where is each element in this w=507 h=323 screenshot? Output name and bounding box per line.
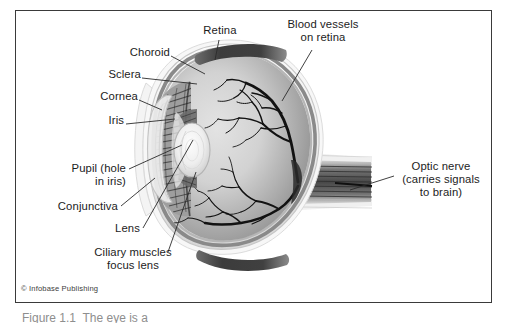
copyright-credit: © Infobase Publishing — [21, 284, 98, 293]
label-blood-vessels-line1: Blood vessels — [272, 18, 374, 31]
label-lens: Lens — [82, 222, 140, 235]
label-blood-vessels-line2: on retina — [272, 31, 374, 44]
figure-stage: Retina Choroid Sclera Cornea Iris Pupil … — [0, 0, 507, 323]
label-ciliary-line2: focus lens — [84, 259, 182, 272]
lens — [174, 123, 210, 177]
label-optic-nerve-line2: (carries signals — [388, 173, 494, 186]
label-pupil-line2: in iris) — [34, 175, 126, 188]
label-retina: Retina — [186, 24, 254, 37]
label-sclera: Sclera — [75, 68, 141, 81]
label-iris: Iris — [70, 114, 124, 127]
label-conjunctiva: Conjunctiva — [36, 200, 118, 213]
label-optic-nerve-line1: Optic nerve — [388, 160, 494, 173]
label-choroid: Choroid — [92, 46, 170, 59]
figure-caption: Figure 1.1 The eye is a — [22, 311, 148, 323]
label-optic-nerve-line3: to brain) — [388, 186, 494, 199]
label-pupil-line1: Pupil (hole — [34, 162, 126, 175]
label-cornea: Cornea — [62, 90, 138, 103]
label-ciliary-line1: Ciliary muscles — [84, 246, 182, 259]
